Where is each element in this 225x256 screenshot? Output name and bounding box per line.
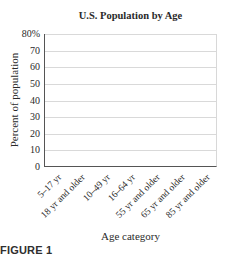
y-tick-20: 20 xyxy=(8,129,40,139)
y-tick-70: 70 xyxy=(8,46,40,56)
gridline-80 xyxy=(45,34,216,35)
y-tick-60: 60 xyxy=(8,62,40,72)
y-tick-10: 10 xyxy=(8,145,40,155)
gridline-40 xyxy=(45,101,216,102)
gridline-50 xyxy=(45,84,216,85)
gridline-10 xyxy=(45,150,216,151)
gridline-20 xyxy=(45,134,216,135)
y-tick-0: 0 xyxy=(8,162,40,172)
figure-label: FIGURE 1 xyxy=(0,244,52,256)
gridline-60 xyxy=(45,67,216,68)
gridline-70 xyxy=(45,51,216,52)
y-tick-30: 30 xyxy=(8,112,40,122)
gridline-30 xyxy=(45,117,216,118)
chart-title: U.S. Population by Age xyxy=(44,10,217,21)
y-tick-50: 50 xyxy=(8,79,40,89)
y-tick-80: 80% xyxy=(8,29,40,39)
x-axis-label: Age category xyxy=(44,230,217,242)
plot-area xyxy=(44,34,217,167)
y-tick-40: 40 xyxy=(8,96,40,106)
